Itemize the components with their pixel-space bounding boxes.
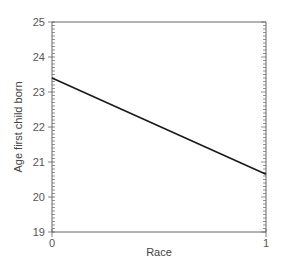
y-tick-label: 19 — [33, 226, 45, 238]
y-tick-label: 22 — [33, 121, 45, 133]
y-tick-label: 24 — [33, 51, 45, 63]
y-tick-label: 23 — [33, 86, 45, 98]
x-tick-label: 1 — [263, 237, 269, 249]
line-chart: 19202122232425 01 Race Age first child b… — [0, 0, 281, 270]
y-tick-label: 25 — [33, 16, 45, 28]
data-line — [52, 78, 266, 174]
y-axis-label: Age first child born — [12, 81, 24, 172]
y-tick-label: 20 — [33, 191, 45, 203]
y-tick-label: 21 — [33, 156, 45, 168]
x-tick-label: 0 — [49, 237, 55, 249]
y-axis-ticks: 19202122232425 — [33, 16, 266, 238]
x-axis-label: Race — [146, 246, 172, 258]
